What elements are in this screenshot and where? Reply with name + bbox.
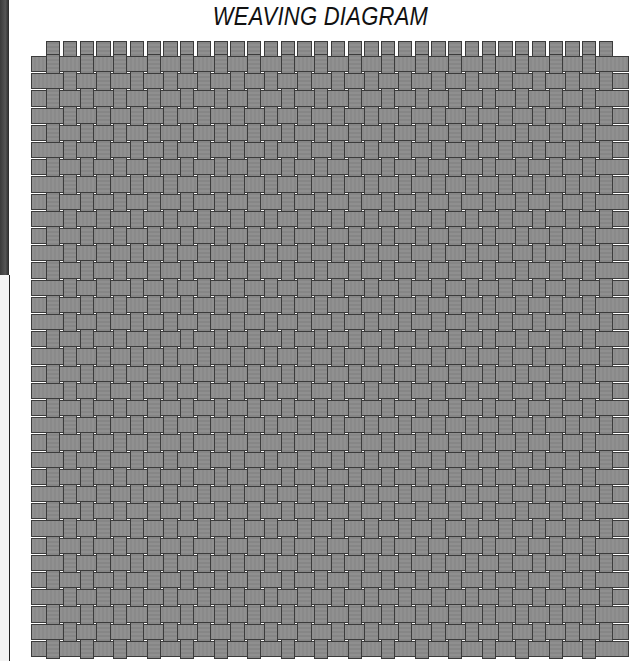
warp-crossing xyxy=(130,209,144,229)
warp-crossing xyxy=(163,484,177,504)
warp-crossing xyxy=(214,536,228,556)
warp-crossing xyxy=(482,295,496,315)
warp-crossing xyxy=(197,484,211,504)
warp-crossing xyxy=(80,536,94,556)
warp-crossing xyxy=(63,518,77,538)
warp-crossing xyxy=(515,226,529,246)
warp-crossing xyxy=(96,243,110,263)
warp-crossing xyxy=(163,209,177,229)
warp-crossing xyxy=(381,123,395,143)
warp-crossing xyxy=(565,622,579,642)
warp-crossing xyxy=(96,71,110,91)
warp-crossing xyxy=(297,71,311,91)
warp-crossing xyxy=(465,346,479,366)
warp-crossing xyxy=(247,54,261,74)
warp-crossing xyxy=(498,381,512,401)
warp-crossing xyxy=(331,71,345,91)
warp-crossing xyxy=(532,622,546,642)
warp-crossing xyxy=(465,106,479,126)
warp-crossing xyxy=(297,278,311,298)
warp-crossing xyxy=(96,518,110,538)
warp-crossing xyxy=(398,415,412,435)
warp-crossing xyxy=(599,587,613,607)
warp-crossing xyxy=(197,174,211,194)
warp-crossing xyxy=(297,484,311,504)
warp-crossing xyxy=(96,278,110,298)
warp-crossing xyxy=(314,260,328,280)
warp-crossing xyxy=(63,312,77,332)
warp-crossing xyxy=(364,622,378,642)
warp-crossing xyxy=(46,329,60,349)
warp-crossing xyxy=(197,415,211,435)
warp-crossing xyxy=(599,140,613,160)
warp-crossing xyxy=(482,192,496,212)
warp-crossing xyxy=(147,467,161,487)
warp-crossing xyxy=(63,209,77,229)
warp-crossing xyxy=(46,226,60,246)
warp-crossing xyxy=(398,553,412,573)
warp-crossing xyxy=(515,398,529,418)
warp-tab xyxy=(130,41,144,57)
warp-crossing xyxy=(130,415,144,435)
warp-crossing xyxy=(364,71,378,91)
warp-crossing xyxy=(80,570,94,590)
warp-crossing xyxy=(281,364,295,384)
warp-crossing xyxy=(515,88,529,108)
warp-crossing xyxy=(297,450,311,470)
warp-crossing xyxy=(448,192,462,212)
warp-crossing xyxy=(549,192,563,212)
warp-crossing xyxy=(180,226,194,246)
warp-crossing xyxy=(448,467,462,487)
warp-tab xyxy=(599,41,613,57)
warp-crossing xyxy=(80,398,94,418)
warp-crossing xyxy=(180,192,194,212)
warp-crossing xyxy=(281,192,295,212)
warp-crossing xyxy=(381,295,395,315)
warp-crossing xyxy=(197,622,211,642)
warp-crossing xyxy=(214,467,228,487)
warp-crossing xyxy=(46,123,60,143)
warp-crossing xyxy=(214,604,228,624)
warp-crossing xyxy=(415,260,429,280)
warp-crossing xyxy=(63,346,77,366)
warp-crossing xyxy=(465,484,479,504)
warp-crossing xyxy=(113,604,127,624)
warp-crossing xyxy=(348,192,362,212)
warp-crossing xyxy=(264,518,278,538)
warp-crossing xyxy=(482,501,496,521)
warp-crossing xyxy=(163,553,177,573)
warp-tab xyxy=(364,41,378,57)
warp-crossing xyxy=(348,604,362,624)
warp-crossing xyxy=(180,54,194,74)
warp-crossing xyxy=(482,54,496,74)
warp-crossing xyxy=(431,553,445,573)
warp-crossing xyxy=(565,381,579,401)
warp-crossing xyxy=(331,312,345,332)
warp-crossing xyxy=(147,501,161,521)
warp-crossing xyxy=(465,587,479,607)
warp-crossing xyxy=(448,226,462,246)
warp-crossing xyxy=(180,329,194,349)
warp-crossing xyxy=(46,364,60,384)
warp-crossing xyxy=(532,346,546,366)
warp-crossing xyxy=(130,278,144,298)
warp-crossing xyxy=(230,518,244,538)
warp-crossing xyxy=(214,432,228,452)
warp-crossing xyxy=(515,467,529,487)
warp-crossing xyxy=(46,192,60,212)
warp-crossing xyxy=(46,295,60,315)
warp-crossing xyxy=(63,553,77,573)
warp-crossing xyxy=(163,415,177,435)
warp-crossing xyxy=(599,209,613,229)
warp-crossing xyxy=(465,174,479,194)
warp-crossing xyxy=(549,364,563,384)
warp-crossing xyxy=(381,192,395,212)
warp-crossing xyxy=(63,587,77,607)
warp-crossing xyxy=(230,278,244,298)
warp-crossing xyxy=(448,260,462,280)
warp-crossing xyxy=(147,398,161,418)
warp-crossing xyxy=(130,174,144,194)
warp-crossing xyxy=(96,553,110,573)
warp-crossing xyxy=(448,398,462,418)
warp-crossing xyxy=(482,467,496,487)
